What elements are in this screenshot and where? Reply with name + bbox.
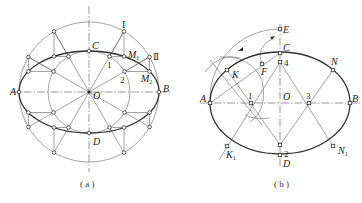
label-C-b: C [283, 42, 290, 53]
label-B-b: B [352, 93, 358, 104]
label-A-b: A [199, 93, 207, 104]
arc-arrow-1 [238, 47, 243, 51]
label-3-b: 3 [306, 91, 311, 101]
figure-a: A B C D O Ⅰ Ⅱ M1 M2 1 2 ( a ) [9, 6, 170, 189]
label-2-a: 2 [120, 75, 125, 85]
label-O-a: O [93, 90, 100, 101]
line-2-K [227, 70, 280, 145]
label-K1: K1 [225, 149, 236, 161]
label-A-a: A [9, 86, 17, 97]
diagram-canvas: A B C D O Ⅰ Ⅱ M1 M2 1 2 ( a ) [0, 0, 362, 203]
label-roman-II: Ⅱ [153, 52, 159, 62]
label-C-a: C [92, 40, 99, 51]
label-D-b: D [282, 158, 291, 169]
label-F-b: F [260, 66, 268, 77]
caption-b: ( b ) [274, 179, 289, 189]
label-B-a: B [163, 83, 169, 94]
label-N1: N1 [337, 145, 348, 157]
arc-E-to-F [260, 38, 273, 64]
label-1-b: 1 [248, 91, 253, 101]
figure-b: A B C D E F O K K1 N N1 1 2 3 4 ( b ) [199, 24, 360, 189]
label-2-b: 2 [284, 149, 289, 159]
label-1-a: 1 [107, 60, 112, 70]
bisector-arc-3 [245, 115, 270, 119]
label-N: N [330, 56, 339, 67]
caption-a: ( a ) [80, 179, 95, 189]
label-M2: M2 [140, 73, 152, 85]
label-M1: M1 [127, 49, 139, 61]
label-O-b: O [283, 91, 290, 102]
label-D-a: D [92, 136, 101, 147]
label-K: K [231, 69, 240, 80]
label-E-b: E [282, 24, 289, 35]
label-roman-I: Ⅰ [122, 20, 126, 30]
label-4-b: 4 [284, 58, 289, 68]
